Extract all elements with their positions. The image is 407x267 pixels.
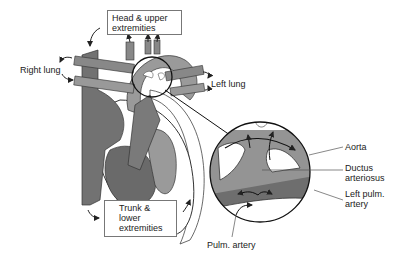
label-line: lower bbox=[119, 213, 172, 223]
label-line: Ductus bbox=[345, 163, 385, 173]
label-right-lung: Right lung bbox=[20, 65, 61, 75]
label-head-upper-extremities: Head & upper extremities bbox=[107, 10, 182, 35]
label-line: Trunk & bbox=[119, 203, 172, 213]
label-left-pulm-artery: Left pulm. artery bbox=[345, 189, 385, 209]
label-left-lung: Left lung bbox=[211, 79, 246, 89]
label-line: arteriosus bbox=[345, 173, 385, 183]
label-ductus-arteriosus: Ductus arteriosus bbox=[345, 163, 385, 183]
label-trunk-lower-extremities: Trunk & lower extremities bbox=[104, 200, 177, 237]
inset-circle bbox=[205, 118, 320, 230]
label-line: extremities bbox=[119, 223, 172, 233]
label-line: Head & upper bbox=[112, 13, 177, 23]
label-pulm-artery: Pulm. artery bbox=[207, 240, 256, 250]
heart-diagram bbox=[0, 0, 407, 267]
label-line: Left pulm. bbox=[345, 189, 385, 199]
label-aorta: Aorta bbox=[345, 142, 367, 152]
label-line: artery bbox=[345, 199, 385, 209]
label-line: extremities bbox=[112, 23, 177, 33]
